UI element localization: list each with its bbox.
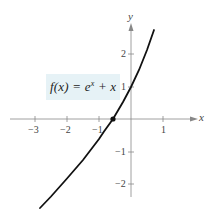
function-label: f(x) = ex + x — [50, 79, 116, 95]
y-axis-arrow-icon — [129, 23, 134, 31]
function-plot — [0, 0, 209, 220]
x-tick-label: −3 — [28, 124, 39, 135]
y-tick-label: 1 — [121, 81, 126, 92]
y-axis-label: y — [128, 10, 133, 22]
x-tick-label: −2 — [60, 124, 71, 135]
x-tick-label: −1 — [92, 124, 103, 135]
y-tick-label: −1 — [115, 146, 126, 157]
x-tick-label: 1 — [161, 124, 166, 135]
y-tick-label: −2 — [115, 178, 126, 189]
zero-point-marker — [110, 116, 115, 121]
x-axis-arrow-icon — [190, 117, 198, 122]
y-tick-label: 2 — [121, 48, 126, 59]
x-axis-label: x — [199, 111, 204, 123]
